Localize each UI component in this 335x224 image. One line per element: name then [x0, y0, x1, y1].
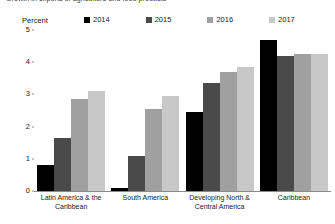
chart-title: Growth in exports of agriculture and foo…	[6, 0, 166, 2]
bar[interactable]	[237, 67, 254, 191]
y-axis-tick-label: 1	[26, 155, 30, 163]
legend-item[interactable]: 2017	[269, 16, 295, 24]
legend-swatch-icon	[84, 17, 90, 23]
x-axis-label: Latin America & the Caribbean	[34, 194, 108, 211]
bar[interactable]	[88, 91, 105, 191]
y-axis-tick-label: 0	[26, 187, 30, 195]
legend-label: 2015	[155, 16, 172, 24]
bar-group	[34, 30, 108, 191]
y-axis-tick-label: 4	[26, 58, 30, 66]
y-axis-title: Percent	[22, 16, 48, 25]
bar[interactable]	[220, 72, 237, 191]
bar[interactable]	[37, 165, 54, 191]
x-axis-labels: Latin America & the CaribbeanSouth Ameri…	[34, 194, 331, 211]
bar-groups	[34, 30, 331, 191]
legend-label: 2014	[93, 16, 110, 24]
y-axis-tick-label: 2	[26, 123, 30, 131]
bar[interactable]	[128, 156, 145, 191]
y-axis-tick-label: 5	[26, 26, 30, 34]
bar-set	[260, 30, 328, 191]
chart-legend: 2014201520162017	[84, 16, 295, 24]
x-axis-label: Developing North & Central America	[183, 194, 257, 211]
legend-item[interactable]: 2016	[207, 16, 233, 24]
legend-label: 2016	[216, 16, 233, 24]
plot-area: 012345	[34, 30, 331, 191]
bar[interactable]	[294, 54, 311, 191]
bar[interactable]	[203, 83, 220, 191]
bar-group	[108, 30, 182, 191]
bar-chart: Growth in exports of agriculture and foo…	[0, 0, 335, 224]
legend-swatch-icon	[146, 17, 152, 23]
bar[interactable]	[277, 56, 294, 191]
bar-set	[111, 30, 179, 191]
legend-item[interactable]: 2014	[84, 16, 110, 24]
bar[interactable]	[260, 40, 277, 191]
x-axis-label: Caribbean	[257, 194, 331, 211]
x-axis-label: South America	[108, 194, 182, 211]
bar[interactable]	[145, 109, 162, 191]
bar[interactable]	[186, 112, 203, 191]
x-axis-line	[34, 191, 331, 192]
bar[interactable]	[54, 138, 71, 191]
bar[interactable]	[311, 54, 328, 191]
bar-group	[183, 30, 257, 191]
legend-swatch-icon	[207, 17, 213, 23]
bar-group	[257, 30, 331, 191]
bar-set	[186, 30, 254, 191]
bar[interactable]	[71, 99, 88, 191]
bar-set	[37, 30, 105, 191]
bar[interactable]	[162, 96, 179, 191]
legend-swatch-icon	[269, 17, 275, 23]
y-axis-tick-label: 3	[26, 91, 30, 99]
legend-label: 2017	[278, 16, 295, 24]
legend-item[interactable]: 2015	[146, 16, 172, 24]
